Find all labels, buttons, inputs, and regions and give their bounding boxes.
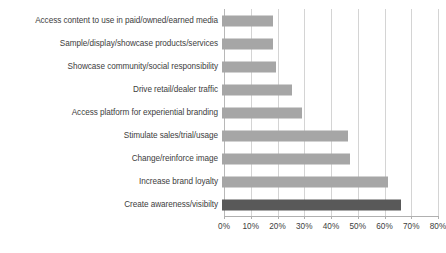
bar-row: Access content to use in paid/owned/earn…: [0, 9, 446, 32]
bar-cell: [222, 101, 446, 124]
x-tick-30%: [304, 216, 305, 219]
x-tick-60%: [385, 216, 386, 219]
x-tick-label: 30%: [296, 221, 312, 232]
x-tick-label: 20%: [269, 221, 285, 232]
plot-area: Access content to use in paid/owned/earn…: [0, 0, 446, 253]
x-tick-10%: [251, 216, 252, 219]
x-tick-label: 80%: [430, 221, 446, 232]
bar-row: Sample/display/showcase products/service…: [0, 32, 446, 55]
bar-chart-figure: Access content to use in paid/owned/earn…: [0, 0, 446, 253]
bar-row: Increase brand loyalty: [0, 170, 446, 193]
x-tick-80%: [438, 216, 439, 219]
bar: [222, 107, 302, 118]
bar: [222, 199, 401, 210]
bar-cell: [222, 32, 446, 55]
category-label: Increase brand loyalty: [0, 177, 222, 187]
x-tick-label: 60%: [376, 221, 392, 232]
bar-cell: [222, 147, 446, 170]
x-axis-ticks: [224, 216, 438, 220]
bar: [222, 15, 273, 26]
bar: [222, 84, 292, 95]
x-tick-label: 70%: [403, 221, 419, 232]
x-tick-50%: [358, 216, 359, 219]
category-label: Create awareness/visibilty: [0, 200, 222, 210]
category-label: Drive retail/dealer traffic: [0, 85, 222, 95]
bar: [222, 38, 273, 49]
category-label: Access platform for experiential brandin…: [0, 108, 222, 118]
bar-row: Change/reinforce image: [0, 147, 446, 170]
bar-cell: [222, 124, 446, 147]
bar-cell: [222, 55, 446, 78]
x-tick-20%: [278, 216, 279, 219]
bar: [222, 130, 348, 141]
bar-row: Showcase community/social responsibility: [0, 55, 446, 78]
category-label: Sample/display/showcase products/service…: [0, 39, 222, 49]
category-label: Stimulate sales/trial/usage: [0, 131, 222, 141]
bar-row: Access platform for experiential brandin…: [0, 101, 446, 124]
x-tick-label: 0%: [218, 221, 230, 232]
x-tick-label: 10%: [243, 221, 259, 232]
x-tick-label: 50%: [350, 221, 366, 232]
x-axis-tick-labels: 0%10%20%30%40%50%60%70%80%: [224, 221, 438, 235]
bar-cell: [222, 78, 446, 101]
x-tick-40%: [331, 216, 332, 219]
category-label: Access content to use in paid/owned/earn…: [0, 16, 222, 26]
category-label: Change/reinforce image: [0, 154, 222, 164]
category-label: Showcase community/social responsibility: [0, 62, 222, 72]
bar: [222, 176, 388, 187]
bar-row: Create awareness/visibilty: [0, 193, 446, 216]
bar: [222, 61, 276, 72]
x-tick-0%: [224, 216, 225, 219]
bar-cell: [222, 9, 446, 32]
x-tick-label: 40%: [323, 221, 339, 232]
bar-row: Drive retail/dealer traffic: [0, 78, 446, 101]
bar: [222, 153, 350, 164]
bar-cell: [222, 193, 446, 216]
bar-row: Stimulate sales/trial/usage: [0, 124, 446, 147]
bar-rows: Access content to use in paid/owned/earn…: [0, 9, 446, 216]
x-tick-70%: [411, 216, 412, 219]
bar-cell: [222, 170, 446, 193]
